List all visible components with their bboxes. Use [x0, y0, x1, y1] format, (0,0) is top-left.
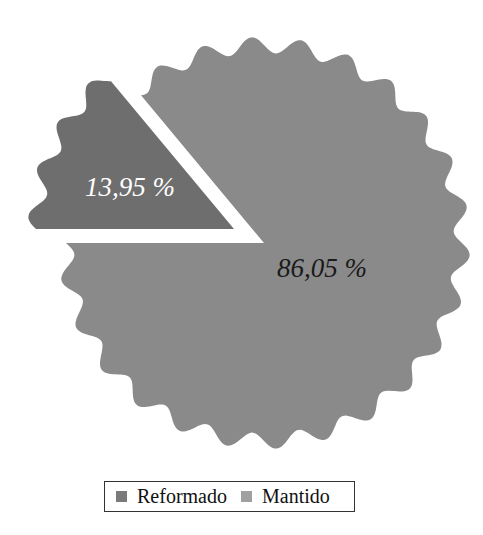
legend-label-mantido: Mantido [262, 485, 330, 508]
legend-marker-reformado [116, 491, 127, 502]
pie-chart [0, 0, 483, 470]
legend-marker-mantido [241, 491, 252, 502]
slice-label-mantido: 86,05 % [277, 253, 367, 284]
chart-legend: Reformado Mantido [104, 481, 355, 512]
legend-item-mantido: Mantido [241, 485, 330, 508]
legend-label-reformado: Reformado [137, 485, 227, 508]
slice-label-reformado: 13,95 % [85, 172, 175, 203]
legend-item-reformado: Reformado [116, 485, 227, 508]
